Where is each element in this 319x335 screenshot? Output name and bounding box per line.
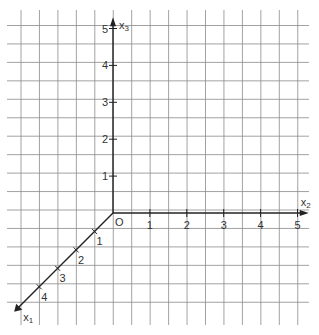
x1-tick-label: 4 (41, 291, 47, 303)
tick-marks (37, 29, 298, 290)
x3-tick-label: 2 (102, 133, 108, 145)
x3-axis-label: x3 (119, 19, 130, 33)
x1-axis (18, 213, 113, 308)
coordinate-diagram: 12345123451234 O x3 x2 x1 (0, 0, 319, 335)
x2-tick-label: 5 (294, 219, 300, 231)
origin-label: O (115, 216, 124, 228)
x1-tick-label: 3 (60, 272, 66, 284)
x3-tick-label: 5 (102, 23, 108, 35)
x1-tick-label: 1 (96, 235, 102, 247)
x2-tick-label: 2 (184, 219, 190, 231)
axes (14, 17, 309, 312)
x2-tick-label: 4 (258, 219, 264, 231)
x3-tick-label: 4 (102, 59, 108, 71)
x3-tick-label: 1 (102, 170, 108, 182)
grid (7, 10, 309, 325)
tick-labels: 12345123451234 (41, 23, 300, 303)
x3-tick-label: 3 (102, 96, 108, 108)
x1-tick-label: 2 (78, 254, 84, 266)
x2-tick-label: 3 (221, 219, 227, 231)
x2-axis-label: x2 (301, 196, 312, 210)
x2-tick-label: 1 (147, 219, 153, 231)
x1-axis-label: x1 (23, 311, 34, 325)
x3-arrow-icon (110, 17, 116, 26)
x2-arrow-icon (300, 210, 309, 216)
coordinate-svg: 12345123451234 O x3 x2 x1 (0, 0, 319, 335)
